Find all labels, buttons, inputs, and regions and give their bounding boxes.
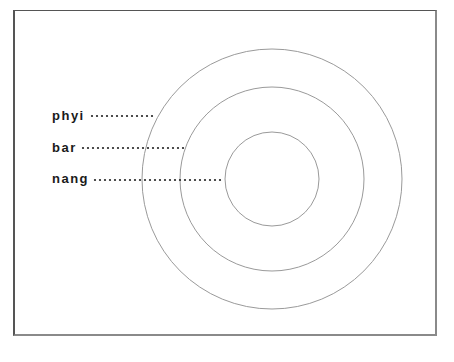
circle-middle: [180, 87, 364, 271]
label-phyi: phyi: [52, 109, 85, 123]
circle-outer: [142, 49, 402, 309]
label-nang: nang: [52, 172, 89, 186]
circle-inner: [225, 132, 319, 226]
label-bar: bar: [52, 141, 77, 155]
